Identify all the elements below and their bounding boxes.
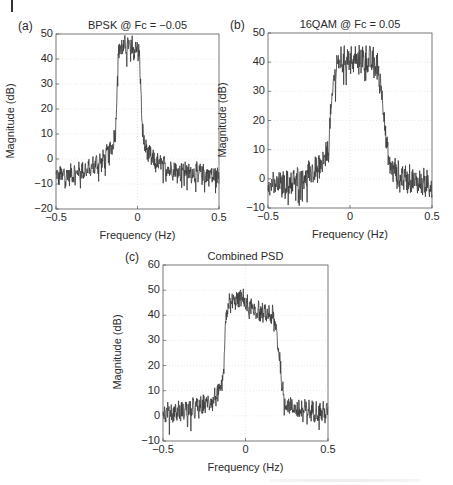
y-tick-label: 30	[130, 333, 160, 345]
chart-panel-c: Combined PSD(c)−100102030405060−0.500.5F…	[0, 0, 453, 485]
y-tick-label: 50	[130, 283, 160, 295]
plot-area-c	[0, 0, 453, 485]
faded-caption-bleed	[270, 479, 420, 482]
y-tick-label: 10	[130, 384, 160, 396]
y-tick-label: 0	[130, 409, 160, 421]
y-axis-label: Magnitude (dB)	[111, 302, 123, 402]
x-axis-label: Frequency (Hz)	[163, 461, 328, 473]
y-tick-label: 40	[130, 308, 160, 320]
x-tick-label: 0	[226, 443, 266, 455]
x-tick-label: −0.5	[143, 443, 183, 455]
x-tick-label: 0.5	[308, 443, 348, 455]
chart-title-c: Combined PSD	[163, 250, 328, 262]
y-tick-label: 60	[130, 258, 160, 270]
y-tick-label: 20	[130, 359, 160, 371]
